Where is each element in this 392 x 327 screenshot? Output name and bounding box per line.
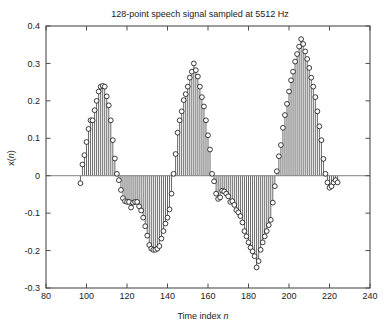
data-point-marker: [185, 84, 190, 89]
data-point-marker: [129, 205, 134, 210]
data-point-marker: [313, 95, 318, 100]
data-point-marker: [78, 181, 83, 186]
data-point-marker: [106, 103, 111, 108]
data-point-marker: [187, 75, 192, 80]
data-point-marker: [90, 118, 95, 123]
data-point-marker: [141, 215, 146, 220]
data-point-marker: [183, 92, 188, 97]
data-point-marker: [117, 178, 122, 183]
data-point-marker: [295, 52, 300, 57]
y-tick-label: -0.2: [24, 246, 40, 256]
data-point-marker: [175, 130, 180, 135]
x-tick-label: 160: [200, 291, 215, 301]
data-point-marker: [226, 194, 231, 199]
data-point-marker: [252, 254, 257, 259]
data-point-marker: [167, 207, 172, 212]
data-point-marker: [293, 59, 298, 64]
x-axis-tick-labels: 80100120140160180200220240: [41, 291, 378, 301]
data-point-marker: [104, 94, 109, 99]
x-axis-label: Time index n: [177, 311, 228, 321]
data-point-marker: [163, 221, 168, 226]
data-point-marker: [305, 57, 310, 62]
data-point-marker: [279, 143, 284, 148]
data-point-marker: [270, 200, 275, 205]
data-point-marker: [181, 98, 186, 103]
y-tick-label: 0.2: [27, 96, 40, 106]
data-point-marker: [80, 162, 85, 167]
x-tick-label: 140: [160, 291, 175, 301]
data-point-marker: [276, 154, 281, 159]
chart-title: 128-point speech signal sampled at 5512 …: [111, 9, 289, 19]
data-point-marker: [169, 191, 174, 196]
x-tick-label: 240: [362, 291, 377, 301]
data-point-marker: [238, 214, 243, 219]
x-tick-label: 100: [79, 291, 94, 301]
data-point-marker: [210, 171, 215, 176]
data-point-marker: [283, 113, 288, 118]
data-point-marker: [112, 156, 117, 161]
data-point-marker: [246, 240, 251, 245]
data-point-marker: [307, 66, 312, 71]
y-tick-label: 0: [35, 171, 40, 181]
data-point-marker: [114, 171, 119, 176]
data-point-marker: [285, 101, 290, 106]
data-point-marker: [325, 180, 330, 185]
y-tick-label: -0.1: [24, 208, 40, 218]
data-point-marker: [157, 244, 162, 249]
data-point-marker: [315, 109, 320, 114]
data-point-marker: [317, 124, 322, 129]
data-point-marker: [161, 229, 166, 234]
data-point-marker: [86, 127, 91, 132]
y-tick-label: -0.3: [24, 283, 40, 293]
data-point-marker: [256, 259, 261, 264]
data-point-marker: [92, 108, 97, 113]
data-point-marker: [242, 229, 247, 234]
data-point-marker: [258, 247, 263, 252]
data-point-marker: [82, 153, 87, 158]
data-point-marker: [250, 249, 255, 254]
data-point-marker: [202, 104, 207, 109]
x-tick-label: 80: [41, 291, 51, 301]
data-point-marker: [119, 188, 124, 193]
y-tick-label: 0.3: [27, 59, 40, 69]
data-point-marker: [301, 42, 306, 47]
data-point-marker: [281, 125, 286, 130]
data-point-marker: [319, 138, 324, 143]
data-point-marker: [274, 169, 279, 174]
data-point-marker: [139, 208, 144, 213]
data-point-marker: [110, 138, 115, 143]
data-point-marker: [264, 229, 269, 234]
data-point-marker: [266, 223, 271, 228]
y-tick-label: 0.1: [27, 133, 40, 143]
data-point-marker: [212, 179, 217, 184]
data-point-marker: [260, 240, 265, 245]
data-point-marker: [289, 78, 294, 83]
data-point-marker: [232, 203, 237, 208]
figure-canvas: 128-point speech signal sampled at 5512 …: [0, 0, 392, 327]
data-point-marker: [303, 49, 308, 54]
data-point-marker: [268, 217, 273, 222]
data-point-marker: [84, 140, 89, 145]
data-point-marker: [96, 89, 101, 94]
data-point-marker: [173, 152, 178, 157]
x-tick-label: 200: [281, 291, 296, 301]
data-point-marker: [323, 171, 328, 176]
data-point-marker: [262, 234, 267, 239]
data-point-marker: [321, 156, 326, 161]
data-point-marker: [177, 118, 182, 123]
data-point-marker: [200, 95, 205, 100]
data-point-marker: [214, 191, 219, 196]
data-point-marker: [309, 75, 314, 80]
data-point-marker: [335, 180, 340, 185]
data-point-marker: [291, 69, 296, 74]
x-tick-label: 180: [241, 291, 256, 301]
data-point-marker: [311, 84, 316, 89]
data-point-marker: [159, 236, 164, 241]
data-point-marker: [102, 84, 107, 89]
data-point-marker: [108, 118, 113, 123]
x-tick-label: 120: [119, 291, 134, 301]
data-point-marker: [191, 61, 196, 66]
data-point-marker: [204, 118, 209, 123]
data-point-marker: [218, 195, 223, 200]
y-axis-label: x(n): [6, 150, 16, 166]
